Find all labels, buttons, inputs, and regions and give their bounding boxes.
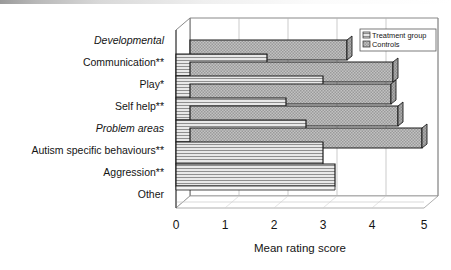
legend-label-treatment-group: Treatment group <box>372 31 426 40</box>
bar-treatment-aggression <box>176 164 335 186</box>
x-axis-title: Mean rating score <box>254 242 346 254</box>
x-tick-3: 3 <box>320 218 327 232</box>
legend-swatch-controls <box>363 41 370 47</box>
chart-legend: Treatment group Controls <box>360 29 436 51</box>
bar-treatment-autism-behaviours <box>176 142 323 164</box>
plot-area: 0 1 2 3 4 5 Mean rating score Treatment … <box>0 0 451 270</box>
legend-label-controls: Controls <box>372 40 400 49</box>
x-axis-ticks: 0 1 2 3 4 5 <box>173 218 428 232</box>
x-tick-1: 1 <box>222 218 229 232</box>
legend-swatch-treatment-group <box>363 32 370 38</box>
x-tick-5: 5 <box>421 218 428 232</box>
x-tick-2: 2 <box>271 218 278 232</box>
chart-container: Developmental Communication** Play* Self… <box>0 0 451 270</box>
x-tick-4: 4 <box>369 218 376 232</box>
x-tick-0: 0 <box>173 218 180 232</box>
